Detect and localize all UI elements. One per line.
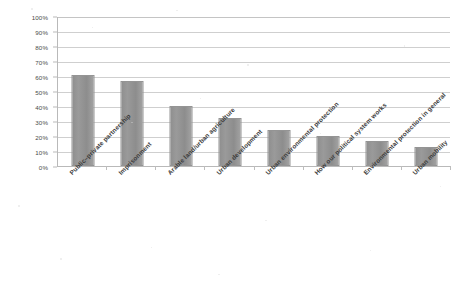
y-axis: 0%10%20%30%40%50%60%70%80%90%100% — [0, 17, 57, 167]
scan-speck — [176, 10, 178, 11]
scan-speck — [440, 186, 441, 187]
scan-speck — [60, 258, 62, 260]
scan-speck — [320, 133, 321, 134]
y-tick-label: 0% — [39, 164, 48, 171]
y-tick-label: 100% — [32, 14, 48, 21]
scan-speck — [247, 64, 249, 66]
y-tick-label: 70% — [35, 59, 48, 66]
scan-speck — [218, 274, 220, 275]
scan-speck — [151, 247, 152, 248]
y-tick-label: 50% — [35, 89, 48, 96]
y-tick-label: 20% — [35, 134, 48, 141]
bar-chart-figure: 0%10%20%30%40%50%60%70%80%90%100% Public… — [0, 0, 463, 285]
y-tick-label: 30% — [35, 119, 48, 126]
y-tick-label: 10% — [35, 149, 48, 156]
scan-speck — [31, 8, 33, 10]
y-tick-label: 60% — [35, 74, 48, 81]
y-tick-label: 90% — [35, 29, 48, 36]
scan-speck — [404, 45, 405, 47]
scan-speck — [200, 98, 201, 99]
x-tick-mark — [450, 166, 451, 170]
scan-speck — [92, 27, 93, 28]
scan-speck — [18, 205, 20, 207]
x-axis-labels: Public–private partnershipImprisonmentAr… — [57, 167, 450, 285]
y-tick-label: 80% — [35, 44, 48, 51]
scan-speck — [265, 220, 267, 221]
y-tick-label: 40% — [35, 104, 48, 111]
scan-speck — [370, 250, 371, 251]
scan-speck — [131, 122, 133, 123]
